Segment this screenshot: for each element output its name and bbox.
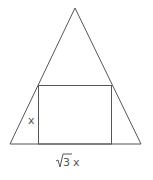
width-label: 3 x <box>56 154 80 169</box>
inscribed-rectangle <box>39 86 112 145</box>
height-label: x <box>28 114 35 127</box>
width-radicand: 3 <box>63 156 70 169</box>
diagram-canvas: x 3 x <box>0 0 153 180</box>
width-variable: x <box>73 156 80 169</box>
